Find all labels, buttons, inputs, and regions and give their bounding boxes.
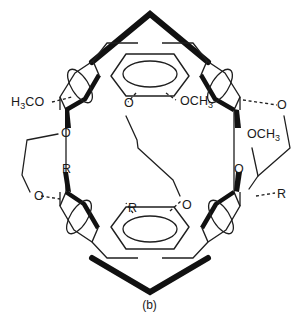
bold-macrocycle-frame <box>92 14 208 292</box>
sub-3: 3 <box>20 101 25 111</box>
aromatic-ring-left-lower <box>60 192 98 242</box>
label-substituent-left: R <box>62 163 71 176</box>
label-oxygen-left-lower: O <box>34 190 44 203</box>
sub-3: 3 <box>275 133 280 143</box>
label-oxygen-left-upper: O <box>61 127 71 140</box>
rear-bridge-bottom-right <box>162 242 208 258</box>
dashed-bond-r-right <box>256 193 275 196</box>
top-bridge-chevron <box>92 14 208 62</box>
label-methoxy-top-center: OCH3 <box>180 95 213 108</box>
wedge-bond-o-left-upper <box>65 108 71 128</box>
linker-chain-left <box>22 134 58 192</box>
label-oxygen-right-lower: O <box>234 163 244 176</box>
aromatic-ring-center-bottom <box>111 207 189 249</box>
methoxy-right-tail <box>252 148 258 176</box>
chemical-structure-figure: H3CO O OCH3 O OCH3 O O R R O O R (b) <box>0 0 299 325</box>
label-oxygen-bottom-center: O <box>182 199 192 212</box>
label-oxygen-right-upper: O <box>277 99 287 112</box>
label-substituent-bottom-center: R <box>128 202 137 215</box>
sub-3: 3 <box>208 100 213 110</box>
dashed-bond-oxygen-right-upper <box>243 100 277 105</box>
dashed-bonds-group <box>41 93 277 213</box>
structure-drawing <box>0 0 299 325</box>
bottom-bridge-chevron <box>92 258 208 292</box>
linker-chain-center <box>126 116 180 196</box>
aromatic-ring-right-lower <box>202 192 240 242</box>
ring-center-top-aromatic-circle <box>123 61 177 87</box>
wedge-bond-och3-right <box>234 109 241 128</box>
figure-caption: (b) <box>0 298 299 312</box>
aromatic-ring-left <box>60 61 99 110</box>
ring-left-lower-bold-edge <box>66 192 98 228</box>
label-substituent-right: R <box>277 188 286 201</box>
ring-center-bottom-aromatic-circle <box>123 216 177 242</box>
ring-right-lower-bold-edge <box>202 192 234 228</box>
rear-macrocycle-frame <box>60 43 240 258</box>
aromatic-ring-center-top <box>111 54 189 96</box>
label-methoxy-left: H3CO <box>11 96 44 109</box>
wedge-bonds-group <box>63 108 242 192</box>
label-oxygen-top-center: O <box>124 97 134 110</box>
label-methoxy-right: OCH3 <box>247 128 280 141</box>
rear-bridge-bottom-left <box>92 242 138 258</box>
